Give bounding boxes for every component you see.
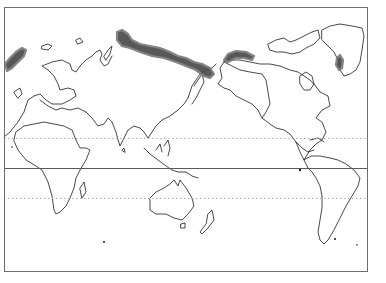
map-background [0,0,386,283]
island-south-georgia [356,244,358,246]
island-falklands [334,238,336,240]
shaded-greenland-east-coast [336,55,343,70]
island-galapagos [299,169,301,171]
world-map [0,0,386,283]
island-south-indian-ocean [103,241,105,243]
island-azores [11,146,13,148]
